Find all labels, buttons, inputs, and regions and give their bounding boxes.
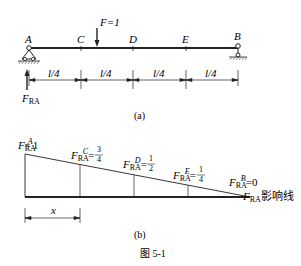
figure-caption: 图 5-1 [140,248,166,259]
point-label-c: C [77,33,85,45]
load-arrow-icon [95,28,100,47]
point-label-a: A [24,33,32,45]
segment-label-3: l/4 [153,67,165,79]
svg-text:2: 2 [149,164,153,173]
svg-text:3: 3 [97,145,101,154]
svg-text:1: 1 [199,165,203,174]
load-label: F=1 [99,16,120,28]
influence-line-figure: FRAA1= FRAC= 3 4 FRAD= 1 2 FRAE= 1 4 FRA… [17,137,294,241]
point-label-e: E [181,33,189,45]
value-label-b: FRAB=0 [228,174,258,190]
value-label-e: FRAE= [172,167,196,183]
influence-line-diagram: F=1 A C D E B FRA l/4 l/4 l/4 [0,0,301,266]
value-label-c: FRAC= [70,147,94,163]
x-label: x [50,204,56,216]
svg-text:1: 1 [149,154,153,163]
value-label-d: FRAD= [122,156,147,172]
caption-a: (a) [134,110,145,122]
svg-text:4: 4 [97,155,101,164]
reaction-label: FRA [21,92,40,106]
point-label-d: D [128,33,137,45]
svg-text:4: 4 [199,175,203,184]
segment-label-4: l/4 [205,67,217,79]
segment-label-1: l/4 [48,67,60,79]
segment-label-2: l/4 [100,67,112,79]
beam-figure: F=1 A C D E B FRA l/4 l/4 l/4 [18,16,247,122]
point-label-b: B [234,30,241,42]
roller-support-icon [229,44,247,60]
caption-b: (b) [134,229,146,241]
influence-line-label: FRA影响线 [242,189,294,204]
value-label-a: FRAA1= [17,137,38,153]
